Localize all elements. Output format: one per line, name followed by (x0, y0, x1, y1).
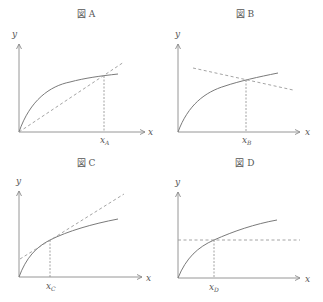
panel-a-curve (19, 74, 118, 132)
panel-b-x-label: x (305, 127, 310, 137)
panel-a: 図 A y x xA (11, 9, 153, 146)
panel-c-marker-label: xC (46, 281, 56, 292)
panel-c-title: 図 C (77, 158, 96, 168)
panel-a-y-label: y (11, 29, 18, 39)
panel-b-dashed-line (193, 68, 293, 90)
figure-canvas: 図 A y x xA 図 B y x xB 図 C y x xC 図 D y (0, 0, 323, 302)
panel-d-x-label: x (305, 274, 310, 284)
panel-b-title: 図 B (236, 9, 255, 19)
panel-c: 図 C y x xC (15, 158, 151, 292)
panel-d: 図 D y x xD (174, 158, 310, 293)
panel-d-y-label: y (174, 177, 181, 187)
panel-d-title: 図 D (235, 158, 254, 168)
panel-a-title: 図 A (77, 9, 96, 19)
panel-b-marker-label: xB (242, 135, 252, 146)
panel-c-curve (19, 219, 118, 277)
panel-c-tangent-line (20, 194, 124, 259)
panel-c-x-label: x (146, 273, 151, 283)
panel-b-y-label: y (174, 29, 181, 39)
panel-b: 図 B y x xB (174, 9, 310, 146)
panel-c-y-label: y (15, 176, 22, 186)
panel-d-curve (178, 220, 277, 278)
panel-a-marker-label: xA (100, 135, 110, 146)
panel-b-curve (178, 73, 278, 132)
panel-a-x-label: x (148, 127, 153, 137)
panel-d-marker-label: xD (209, 282, 219, 293)
panel-a-dashed-line (19, 62, 124, 132)
